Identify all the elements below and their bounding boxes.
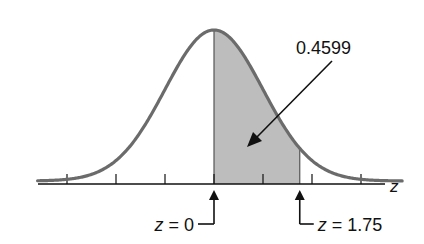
area-annotation: 0.4599: [296, 38, 351, 58]
z-marker-label: z = 1.75: [317, 215, 383, 235]
z-marker: z = 0: [153, 190, 219, 235]
z-marker: z = 1.75: [295, 190, 383, 235]
z-marker-label: z = 0: [153, 215, 194, 235]
z-markers: z = 0z = 1.75: [153, 190, 382, 235]
normal-curve-chart: z 0.4599 z = 0z = 1.75: [0, 0, 424, 244]
axis-ticks: [67, 174, 361, 184]
x-axis-label: z: [389, 177, 399, 196]
